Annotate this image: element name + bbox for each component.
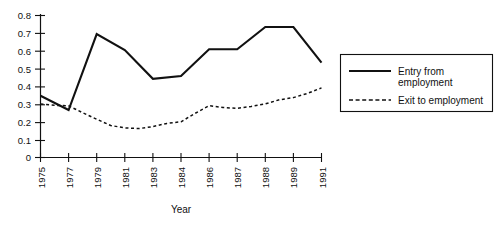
y-tick-label: 0.2: [18, 117, 31, 128]
y-tick-label: 0.1: [18, 135, 31, 146]
x-tick-label: 1991: [317, 167, 328, 188]
legend-label-line2: employment: [398, 77, 453, 88]
y-axis: 0.8 0.7 0.6 0.5 0.4 0.3 0.2 0.1 0: [18, 10, 45, 163]
series-line-exit-to-employment: [41, 88, 322, 129]
x-tick-label: 1984: [176, 167, 187, 188]
x-tick-label: 1983: [148, 167, 159, 188]
x-tick-label: 1977: [64, 167, 75, 188]
data-series-group: [41, 27, 322, 129]
x-tick-label: 1981: [120, 167, 131, 188]
y-tick-label: 0.8: [18, 10, 31, 21]
series-line-entry-from-employment: [41, 27, 322, 110]
x-tick-label: 1975: [36, 167, 47, 188]
y-tick-label: 0.4: [18, 81, 31, 92]
x-tick-label: 1989: [288, 167, 299, 188]
line-chart-svg: 0.8 0.7 0.6 0.5 0.4 0.3 0.2 0.1 0: [0, 0, 500, 228]
chart-figure: 0.8 0.7 0.6 0.5 0.4 0.3 0.2 0.1 0: [0, 0, 500, 228]
y-tick-label: 0.5: [18, 64, 31, 75]
x-tick-label: 1988: [260, 167, 271, 188]
x-axis: 1975 1977 1979 1981 1983 1984 1986 1987 …: [36, 153, 328, 215]
y-tick-label: 0.3: [18, 99, 31, 110]
y-tick-label: 0: [26, 152, 31, 163]
x-tick-label: 1979: [92, 167, 103, 188]
y-tick-label: 0.6: [18, 46, 31, 57]
x-axis-title: Year: [171, 204, 192, 215]
x-axis-tick-labels: 1975 1977 1979 1981 1983 1984 1986 1987 …: [36, 167, 328, 188]
y-axis-tick-labels: 0.8 0.7 0.6 0.5 0.4 0.3 0.2 0.1 0: [18, 10, 31, 163]
legend-label-line1: Exit to employment: [398, 95, 483, 106]
x-tick-label: 1986: [204, 167, 215, 188]
legend: Entry from employment Exit to employment: [341, 55, 493, 112]
legend-label-line1: Entry from: [398, 66, 444, 77]
x-tick-label: 1987: [232, 167, 243, 188]
y-tick-label: 0.7: [18, 28, 31, 39]
